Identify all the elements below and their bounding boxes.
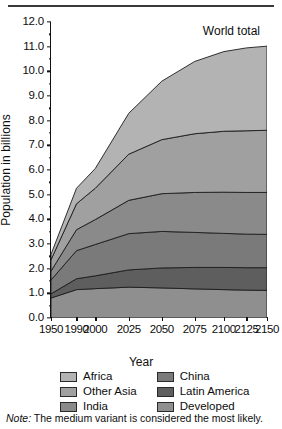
y-axis-minor-tick <box>49 182 52 183</box>
note-prefix: Note: <box>6 412 31 424</box>
y-axis-tick-label: 10.0 <box>22 66 44 78</box>
y-axis-tick <box>47 293 51 294</box>
legend-label-other-asia: Other Asia <box>83 386 137 398</box>
x-axis-title: Year <box>0 355 282 369</box>
legend-swatch-other-asia <box>60 387 77 397</box>
legend-item-latin-america: Latin America <box>157 386 250 398</box>
note-text: The medium variant is considered the mos… <box>34 412 263 424</box>
x-axis-tick-label: 1950 <box>39 324 63 336</box>
y-axis-minor-tick <box>49 83 52 84</box>
x-axis-tick <box>129 317 130 321</box>
chart-area: World total 0.01.02.03.04.05.06.07.08.09… <box>50 22 266 318</box>
top-divider <box>8 5 274 7</box>
x-axis-tick-label: 2000 <box>83 324 107 336</box>
y-axis-tick <box>47 169 51 170</box>
stacked-area-paths <box>51 22 267 318</box>
y-axis-tick <box>47 120 51 121</box>
x-axis-tick <box>162 317 163 321</box>
legend-label-china: China <box>180 371 210 383</box>
y-axis-tick-label: 1.0 <box>29 288 44 300</box>
y-axis-title-label: Population in billions <box>0 114 13 226</box>
x-axis-tick-label: 2075 <box>183 324 207 336</box>
y-axis-tick-label: 5.0 <box>29 189 44 201</box>
y-axis-tick-label: 8.0 <box>29 115 44 127</box>
figure-container: Population in billions World total 0.01.… <box>0 0 282 429</box>
x-axis-tick <box>95 317 96 321</box>
y-axis-tick <box>47 194 51 195</box>
x-axis-tick-label: 2025 <box>117 324 141 336</box>
legend-swatch-developed <box>157 402 174 412</box>
y-axis-minor-tick <box>49 256 52 257</box>
y-axis-minor-tick <box>49 157 52 158</box>
x-axis-tick-label: 2050 <box>150 324 174 336</box>
y-axis-minor-tick <box>49 206 52 207</box>
legend-swatch-latin-america <box>157 387 174 397</box>
y-axis-tick-label: 9.0 <box>29 90 44 102</box>
y-axis-minor-tick <box>49 231 52 232</box>
x-axis-tick <box>246 317 247 321</box>
y-axis-minor-tick <box>49 108 52 109</box>
legend-item-africa: Africa <box>60 371 137 383</box>
legend-item-india: India <box>60 401 137 413</box>
y-axis-minor-tick <box>49 58 52 59</box>
y-axis-minor-tick <box>49 305 52 306</box>
x-axis-tick <box>51 317 52 321</box>
x-axis-tick <box>267 317 268 321</box>
plot-region: 0.01.02.03.04.05.06.07.08.09.010.011.012… <box>50 22 266 318</box>
legend-item-developed: Developed <box>157 401 250 413</box>
legend-item-china: China <box>157 371 250 383</box>
legend-label-developed: Developed <box>180 401 235 413</box>
legend-item-other-asia: Other Asia <box>60 386 137 398</box>
y-axis-tick-label: 7.0 <box>29 140 44 152</box>
y-axis-tick <box>47 46 51 47</box>
x-axis-tick-label: 2150 <box>255 324 279 336</box>
y-axis-tick <box>47 21 51 22</box>
legend-label-india: India <box>83 401 108 413</box>
area-series-developed <box>51 287 267 318</box>
legend-swatch-africa <box>60 372 77 382</box>
y-axis-tick-label: 11.0 <box>23 41 44 53</box>
y-axis-tick <box>47 71 51 72</box>
x-axis-tick <box>195 317 196 321</box>
legend-swatch-china <box>157 372 174 382</box>
y-axis-tick <box>47 95 51 96</box>
legend-swatch-india <box>60 402 77 412</box>
x-axis-tick-label: 2100 <box>212 324 236 336</box>
y-axis-tick-label: 3.0 <box>29 238 44 250</box>
y-axis-tick-label: 2.0 <box>29 263 44 275</box>
y-axis-tick <box>47 219 51 220</box>
y-axis-tick-label: 6.0 <box>29 164 44 176</box>
y-axis-tick <box>47 268 51 269</box>
y-axis-minor-tick <box>49 280 52 281</box>
legend-label-africa: Africa <box>83 371 112 383</box>
figure-note: Note: The medium variant is considered t… <box>6 412 278 424</box>
y-axis-title: Population in billions <box>0 22 14 318</box>
y-axis-tick-label: 4.0 <box>29 214 44 226</box>
chart-legend: AfricaChinaOther AsiaLatin AmericaIndiaD… <box>60 371 240 413</box>
x-axis-tick <box>224 317 225 321</box>
legend-label-latin-america: Latin America <box>180 386 250 398</box>
y-axis-minor-tick <box>49 34 52 35</box>
y-axis-minor-tick <box>49 132 52 133</box>
y-axis-tick <box>47 145 51 146</box>
y-axis-tick-label: 12.0 <box>22 16 44 28</box>
x-axis-tick <box>76 317 77 321</box>
y-axis-tick <box>47 243 51 244</box>
